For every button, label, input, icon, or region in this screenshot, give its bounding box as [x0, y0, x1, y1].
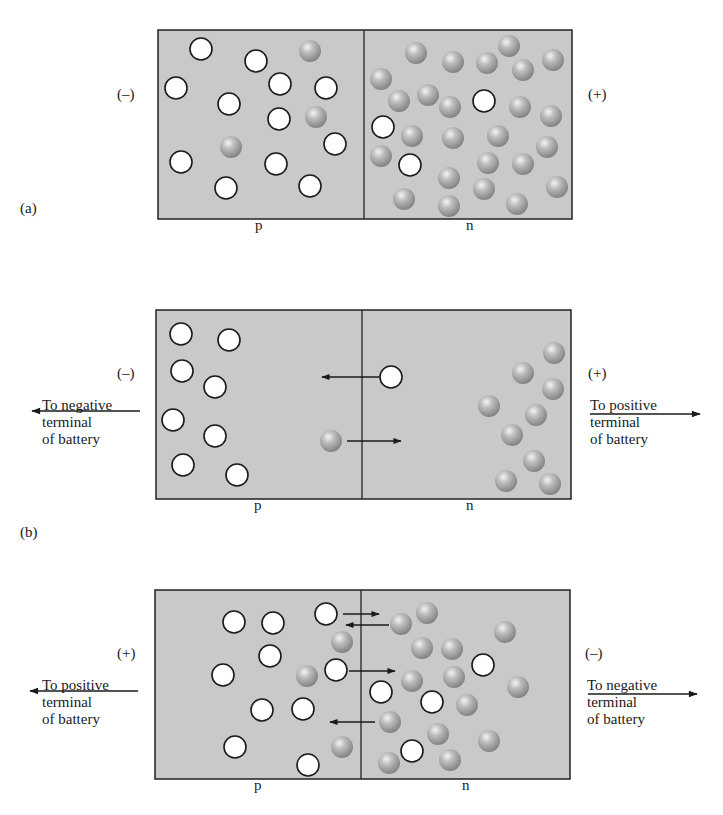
electron-sphere-icon [512, 362, 534, 384]
right-terminal-caption: To positive terminal of battery [590, 397, 657, 448]
electron-sphere-icon [476, 52, 498, 74]
panel-label: (a) [20, 200, 37, 217]
electron-sphere-icon [536, 136, 558, 158]
left-polarity-label: (+) [117, 645, 135, 662]
left-terminal-caption: To positive terminal of battery [42, 677, 109, 728]
electron-sphere-icon [439, 749, 461, 771]
n-region-label: n [466, 217, 474, 234]
electron-sphere-icon [401, 670, 423, 692]
n-region-label: n [466, 497, 474, 514]
left-polarity-label: (–) [117, 86, 135, 103]
electron-sphere-icon [305, 106, 327, 128]
hole-circle-icon [315, 77, 337, 99]
hole-circle-icon [299, 175, 321, 197]
hole-circle-icon [245, 50, 267, 72]
right-polarity-label: (–) [585, 645, 603, 662]
electron-sphere-icon [478, 730, 500, 752]
electron-sphere-icon [438, 167, 460, 189]
hole-circle-icon [259, 645, 281, 667]
electron-sphere-icon [473, 178, 495, 200]
p-region-label: p [254, 497, 262, 514]
right-terminal-caption: To negative terminal of battery [587, 677, 657, 728]
hole-circle-icon [268, 108, 290, 130]
hole-circle-icon [172, 454, 194, 476]
right-polarity-label: (+) [588, 86, 606, 103]
hole-circle-icon [325, 659, 347, 681]
electron-sphere-icon [498, 35, 520, 57]
hole-circle-icon [472, 654, 494, 676]
electron-sphere-icon [220, 136, 242, 158]
electron-sphere-icon [331, 631, 353, 653]
hole-circle-icon [215, 177, 237, 199]
hole-circle-icon [204, 425, 226, 447]
hole-circle-icon [251, 699, 273, 721]
electron-sphere-icon [501, 424, 523, 446]
n-region-label: n [462, 777, 470, 794]
electron-sphere-icon [512, 153, 534, 175]
electron-sphere-icon [388, 90, 410, 112]
electron-sphere-icon [417, 84, 439, 106]
hole-circle-icon [297, 754, 319, 776]
electron-sphere-icon [509, 96, 531, 118]
electron-sphere-icon [442, 51, 464, 73]
hole-circle-icon [401, 740, 423, 762]
hole-circle-icon [170, 151, 192, 173]
electron-sphere-icon [296, 665, 318, 687]
hole-circle-icon [190, 38, 212, 60]
electron-sphere-icon [405, 42, 427, 64]
electron-sphere-icon [478, 395, 500, 417]
electron-sphere-icon [523, 450, 545, 472]
hole-circle-icon [262, 612, 284, 634]
hole-circle-icon [212, 664, 234, 686]
hole-circle-icon [399, 154, 421, 176]
electron-sphere-icon [495, 470, 517, 492]
electron-sphere-icon [487, 125, 509, 147]
left-polarity-label: (–) [117, 365, 135, 382]
electron-sphere-icon [378, 752, 400, 774]
hole-circle-icon [292, 698, 314, 720]
right-polarity-label: (+) [588, 365, 606, 382]
hole-circle-icon [473, 90, 495, 112]
hole-circle-icon [218, 329, 240, 351]
electron-sphere-icon [370, 145, 392, 167]
electron-sphere-icon [542, 49, 564, 71]
hole-circle-icon [170, 323, 192, 345]
left-terminal-caption: To negative terminal of battery [42, 397, 112, 448]
hole-circle-icon [269, 73, 291, 95]
electron-sphere-icon [331, 736, 353, 758]
electron-sphere-icon [443, 666, 465, 688]
hole-circle-icon [370, 681, 392, 703]
hole-circle-icon [218, 93, 240, 115]
electron-sphere-icon [438, 195, 460, 217]
electron-sphere-icon [539, 473, 561, 495]
electron-sphere-icon [525, 404, 547, 426]
hole-circle-icon [223, 611, 245, 633]
hole-circle-icon [226, 464, 248, 486]
hole-circle-icon [204, 376, 226, 398]
hole-circle-icon [171, 360, 193, 382]
electron-sphere-icon [456, 694, 478, 716]
electron-sphere-icon [390, 613, 412, 635]
electron-sphere-icon [546, 176, 568, 198]
electron-sphere-icon [441, 638, 463, 660]
electron-sphere-icon [393, 188, 415, 210]
hole-circle-icon [380, 366, 402, 388]
electron-sphere-icon [299, 40, 321, 62]
electron-sphere-icon [506, 193, 528, 215]
electron-sphere-icon [427, 723, 449, 745]
hole-circle-icon [165, 77, 187, 99]
electron-sphere-icon [442, 127, 464, 149]
hole-circle-icon [372, 116, 394, 138]
hole-circle-icon [421, 691, 443, 713]
electron-sphere-icon [320, 430, 342, 452]
electron-sphere-icon [416, 602, 438, 624]
electron-sphere-icon [494, 621, 516, 643]
electron-sphere-icon [401, 125, 423, 147]
electron-sphere-icon [411, 637, 433, 659]
electron-sphere-icon [439, 96, 461, 118]
electron-sphere-icon [542, 378, 564, 400]
hole-circle-icon [315, 603, 337, 625]
panel-label: (b) [20, 524, 38, 541]
electron-sphere-icon [370, 68, 392, 90]
hole-circle-icon [265, 153, 287, 175]
